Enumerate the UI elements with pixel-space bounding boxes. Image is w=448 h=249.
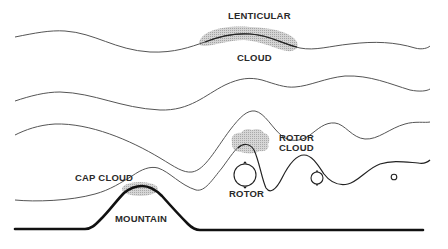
airflow-streamline-2 (15, 76, 430, 110)
rotor-large (234, 161, 256, 188)
rotor-medium (311, 170, 323, 186)
rotor-small (391, 174, 397, 180)
mountain (15, 186, 423, 230)
cap-cloud-label: CAP CLOUD (75, 172, 133, 183)
rotor-cloud-label-line2: CLOUD (279, 142, 314, 153)
mountain-wave-diagram: LENTICULAR CLOUD ROTOR CLOUD CAP CLOUD R… (0, 0, 448, 249)
rotor-streamline (238, 144, 430, 190)
rotor-cloud (232, 129, 270, 153)
lenticular-label-line2: CLOUD (237, 52, 272, 63)
rotor-label: ROTOR (229, 188, 264, 199)
airflow-streamline-3 (15, 111, 430, 172)
lenticular-label-line1: LENTICULAR (228, 10, 291, 21)
mountain-label: MOUNTAIN (115, 213, 167, 224)
